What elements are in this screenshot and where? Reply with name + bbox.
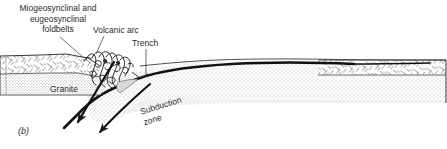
label-volcanic-arc: Volcanic arc [93, 25, 139, 36]
leader-volcanic-arc [96, 36, 104, 54]
panel-label: (b) [18, 126, 29, 137]
label-granite: Granite [50, 84, 78, 95]
label-trench: Trench [132, 38, 158, 49]
geological-cross-section-figure: Miogeosynclinal and eugeosynclinal foldb… [0, 0, 447, 149]
